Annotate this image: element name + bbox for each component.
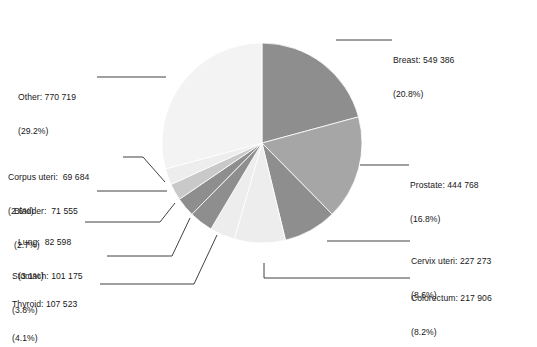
slice-label-colorectum-value: Colorectum: 217 906 (411, 293, 492, 304)
slice-label-thyroid: Thyroid: 107 523 (4.1%) (12, 277, 77, 347)
slice-label-breast: Breast: 549 386 (20.8%) (393, 33, 454, 123)
leader-line-stomach (107, 218, 190, 256)
slice-label-corpus-uteri-value: Corpus uteri: 69 684 (8, 172, 89, 183)
pie-slices (162, 43, 362, 243)
slice-label-prostate-value: Prostate: 444 768 (410, 180, 479, 191)
leader-line-corpus-uteri (123, 157, 165, 182)
slice-label-thyroid-percent: (4.1%) (12, 333, 77, 344)
slice-label-other-value: Other: 770 719 (18, 92, 76, 103)
leader-line-thyroid (100, 235, 217, 284)
slice-label-lung-value: Lung: 82 598 (18, 237, 71, 248)
slice-label-breast-percent: (20.8%) (393, 89, 454, 100)
slice-label-other-percent: (29.2%) (18, 126, 76, 137)
slice-label-thyroid-value: Thyroid: 107 523 (12, 299, 77, 310)
leader-line-lung (85, 203, 175, 222)
slice-label-colorectum-percent: (8.2%) (411, 327, 492, 338)
slice-label-other: Other: 770 719 (29.2%) (18, 70, 76, 160)
slice-label-breast-value: Breast: 549 386 (393, 55, 454, 66)
slice-label-colorectum: Colorectum: 217 906 (8.2%) (411, 271, 492, 347)
slice-label-cervix-uteri-value: Cervix uteri: 227 273 (411, 256, 491, 267)
leader-line-colorectum (264, 263, 410, 278)
slice-label-prostate-percent: (16.8%) (410, 214, 479, 225)
